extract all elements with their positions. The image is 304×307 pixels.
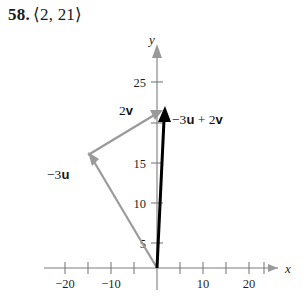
vector-label-2v: 2v: [119, 103, 133, 119]
vector-negative-3u: [88, 152, 157, 268]
y-tick-label: 25: [134, 76, 147, 90]
x-tick-labels: −20 −10 10 20: [55, 277, 255, 291]
vector-label-negative-3u-plus-2v: −3u + 2v: [172, 112, 223, 128]
y-axis-label: y: [147, 32, 155, 47]
x-axis: [44, 262, 278, 274]
coordinate-plot: −20 −10 10 20 5 10 15 25 x y: [0, 0, 304, 307]
vector-label-negative-3u: −3u: [47, 167, 69, 183]
y-tick-labels: 5 10 15 25: [134, 76, 147, 251]
y-tick-label: 10: [134, 197, 147, 211]
x-axis-label: x: [284, 261, 291, 276]
x-tick-label: 10: [197, 277, 210, 291]
vector-figure: 58.⟨2, 21⟩ −2: [0, 0, 304, 307]
x-tick-label: 20: [243, 277, 256, 291]
x-tick-label: −20: [55, 277, 75, 291]
y-tick-label: 15: [134, 157, 147, 171]
x-tick-label: −10: [101, 277, 121, 291]
vector-negative-3u-plus-2v: [157, 106, 171, 268]
